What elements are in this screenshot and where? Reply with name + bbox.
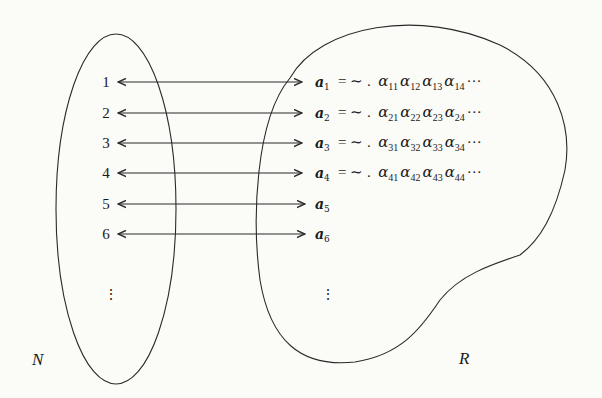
natural-number-1: 1 [100,75,112,90]
natural-continuation: ⋮ [104,292,110,298]
natural-number-6: 6 [100,227,112,242]
natural-number-4: 4 [100,166,112,181]
real-a3: a3 [315,136,330,156]
natural-number-5: 5 [100,197,112,212]
expansion-row-4: = ∼ . α41α42α43α44··· [338,165,482,185]
real-continuation: ⋮ [321,292,327,298]
real-a2: a2 [315,106,330,126]
mapping-arrows [118,82,305,234]
diagram-canvas: 1 2 3 4 5 6 ⋮ a1 a2 a3 a4 a5 a6 ⋮ = ∼ . … [0,0,602,398]
real-a4: a4 [315,166,330,186]
natural-number-2: 2 [100,106,112,121]
natural-number-3: 3 [100,136,112,151]
set-n-ellipse [56,34,176,384]
real-a5: a5 [315,197,330,217]
expansion-row-1: = ∼ . α11α12α13α14··· [338,74,481,94]
expansion-row-3: = ∼ . α31α32α33α34··· [338,135,482,155]
set-label-n: N [32,350,43,370]
real-a6: a6 [315,227,330,247]
expansion-row-2: = ∼ . α21α22α23α24··· [338,105,482,125]
set-label-r: R [459,349,469,369]
diagram-shapes [0,0,602,398]
real-a1: a1 [315,75,330,95]
